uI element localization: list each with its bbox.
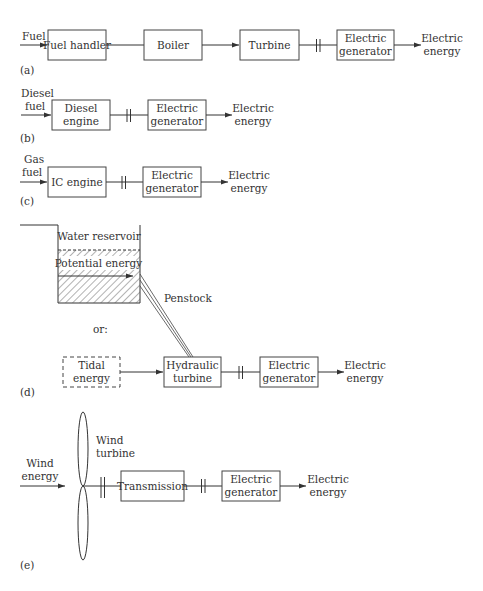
panel-caption-e: (e) <box>20 559 34 571</box>
diesel-engine-line2: engine <box>63 115 99 127</box>
output-label-line1: Electric <box>307 473 349 485</box>
output-label-line1: Electric <box>228 169 270 181</box>
generator-label-line1: Electric <box>345 32 387 44</box>
panel-c-gas-plant: Gas fuel IC engine Electric generator El… <box>20 153 270 207</box>
wind-turbine-label-line1: Wind <box>96 434 124 446</box>
output-label-line2: energy <box>235 115 272 127</box>
panel-a-steam-plant: Fuel Fuel handler Boiler Turbine Electri… <box>20 30 463 76</box>
panel-caption-d: (d) <box>20 386 35 398</box>
output-label-line1: Electric <box>344 359 386 371</box>
penstock-pipe <box>140 274 193 357</box>
energy-conversion-diagram: Fuel Fuel handler Boiler Turbine Electri… <box>0 0 483 591</box>
input-label-line1: Gas <box>24 153 44 165</box>
output-label-line1: Electric <box>232 102 274 114</box>
generator-label-line2: generator <box>151 115 205 127</box>
input-label-line1: Wind <box>26 457 54 469</box>
input-label-line2: energy <box>22 470 59 482</box>
input-label-line1: Diesel <box>21 87 55 99</box>
coupling-icon <box>101 477 105 498</box>
generator-label-line2: generator <box>263 372 317 384</box>
output-label-line2: energy <box>424 45 461 57</box>
potential-energy-label: Potential energy <box>55 257 143 269</box>
or-label: or: <box>93 323 108 335</box>
generator-label-line1: Electric <box>151 169 193 181</box>
ic-engine-label: IC engine <box>51 176 103 188</box>
generator-label-line2: generator <box>339 45 393 57</box>
generator-label-line1: Electric <box>230 473 272 485</box>
turbine-label: Turbine <box>249 39 291 51</box>
input-label-line2: fuel <box>22 166 43 178</box>
boiler-label: Boiler <box>157 39 190 51</box>
generator-label-line1: Electric <box>268 359 310 371</box>
output-label-line2: energy <box>231 182 268 194</box>
panel-caption-b: (b) <box>20 132 35 144</box>
tidal-label-line2: energy <box>73 372 110 384</box>
transmission-label: Transmission <box>117 480 188 492</box>
output-label-line1: Electric <box>421 32 463 44</box>
panel-e-wind-plant: Wind energy Wind turbine Transmission El… <box>20 412 349 571</box>
hydraulic-label-line1: Hydraulic <box>166 359 219 371</box>
wind-turbine-label-line2: turbine <box>96 447 135 459</box>
output-label-line2: energy <box>310 486 347 498</box>
turbine-blade-top <box>78 412 88 486</box>
penstock-label: Penstock <box>164 292 212 304</box>
generator-label-line2: generator <box>225 486 279 498</box>
tidal-label-line1: Tidal <box>78 359 105 371</box>
input-label-line2: fuel <box>25 100 46 112</box>
turbine-blade-bottom <box>78 486 88 560</box>
reservoir-label: Water reservoir <box>57 230 141 242</box>
panel-b-diesel-plant: Diesel fuel Diesel engine Electric gener… <box>20 87 274 144</box>
panel-d-hydro-plant: Water reservoir Potential energy Penstoc… <box>20 225 386 398</box>
diesel-engine-line1: Diesel <box>65 102 99 114</box>
hydraulic-label-line2: turbine <box>173 372 212 384</box>
panel-caption-a: (a) <box>20 64 34 76</box>
fuel-handler-label: Fuel handler <box>43 39 112 51</box>
panel-caption-c: (c) <box>20 195 34 207</box>
output-label-line2: energy <box>347 372 384 384</box>
generator-label-line2: generator <box>146 182 200 194</box>
generator-label-line1: Electric <box>156 102 198 114</box>
